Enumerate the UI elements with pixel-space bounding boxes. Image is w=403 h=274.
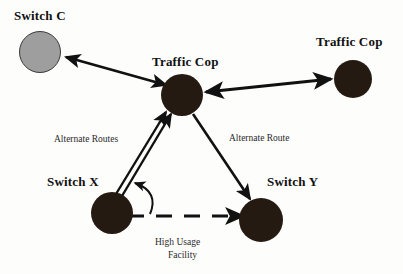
edge-switch-x-to-traffic-cop-a bbox=[116, 112, 166, 194]
node-traffic-cop-right[interactable] bbox=[334, 60, 372, 98]
node-traffic-cop-center[interactable] bbox=[161, 74, 203, 116]
diagram-canvas: Switch C Traffic Cop Traffic Cop Switch … bbox=[0, 0, 403, 274]
node-label-switch-c: Switch C bbox=[14, 8, 66, 24]
node-label-switch-y: Switch Y bbox=[267, 174, 318, 190]
edge-switch-x-to-traffic-cop-b bbox=[122, 114, 171, 196]
edge-traffic-cop-to-traffic-cop-right bbox=[206, 79, 331, 92]
node-label-switch-x: Switch X bbox=[47, 174, 99, 190]
node-switch-c[interactable] bbox=[19, 31, 61, 73]
edge-traffic-cop-to-switch-c bbox=[66, 57, 166, 85]
edge-label-high-usage-facility-line1: High Usage bbox=[155, 236, 200, 248]
edge-label-high-usage-facility-line2: Facility bbox=[168, 249, 197, 261]
node-switch-y[interactable] bbox=[239, 198, 283, 242]
edge-reroute-curved-arrow bbox=[135, 183, 153, 214]
node-switch-x[interactable] bbox=[91, 192, 133, 234]
node-label-traffic-cop-right: Traffic Cop bbox=[316, 34, 383, 50]
node-label-traffic-cop-center: Traffic Cop bbox=[152, 54, 219, 70]
edge-traffic-cop-to-switch-y bbox=[193, 114, 250, 199]
edge-label-alternate-routes: Alternate Routes bbox=[54, 133, 118, 145]
edge-label-alternate-route: Alternate Route bbox=[229, 132, 289, 144]
